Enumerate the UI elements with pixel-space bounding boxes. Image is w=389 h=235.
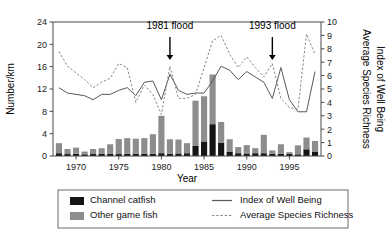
- figure: 0481216202401234567891019701975198019851…: [0, 0, 389, 235]
- y-tick-label: 8: [42, 107, 47, 117]
- y-tick-label: 24: [37, 17, 47, 27]
- y2-tick-label: 3: [327, 111, 332, 121]
- bar-other-game-fish: [210, 74, 216, 124]
- x-tick-label: 1985: [194, 162, 214, 172]
- bar-other-game-fish: [218, 122, 224, 143]
- y2-axis-title-well-being: Index of Well Being: [375, 46, 386, 132]
- bar-other-game-fish: [73, 148, 79, 154]
- bar-other-game-fish: [133, 139, 139, 154]
- bar-other-game-fish: [286, 152, 292, 154]
- y-tick-label: 0: [42, 151, 47, 161]
- y-tick-label: 20: [37, 40, 47, 50]
- bar-channel-catfish: [201, 141, 207, 156]
- bar-other-game-fish: [278, 144, 284, 153]
- x-tick-label: 1995: [279, 162, 299, 172]
- bar-other-game-fish: [90, 149, 96, 154]
- y2-tick-label: 6: [327, 71, 332, 81]
- y2-tick-label: 1: [327, 138, 332, 148]
- y2-tick-label: 8: [327, 44, 332, 54]
- y-axis-title: Number/km: [5, 63, 16, 115]
- bar-channel-catfish: [303, 149, 309, 156]
- y2-tick-label: 5: [327, 84, 332, 94]
- bar-other-game-fish: [312, 141, 318, 152]
- plot-background: [53, 22, 321, 156]
- legend-label: Index of Well Being: [240, 194, 322, 205]
- bar-channel-catfish: [210, 124, 216, 156]
- bar-other-game-fish: [124, 138, 130, 154]
- bar-other-game-fish: [184, 143, 190, 153]
- bar-other-game-fish: [150, 134, 156, 154]
- y2-tick-label: 10: [327, 17, 337, 27]
- bar-channel-catfish: [218, 143, 224, 156]
- bar-other-game-fish: [252, 148, 258, 153]
- x-tick-label: 1980: [151, 162, 171, 172]
- bar-other-game-fish: [261, 135, 267, 153]
- bar-other-game-fish: [64, 149, 70, 154]
- legend-swatch-channel-catfish: [70, 197, 84, 205]
- x-axis-title: Year: [177, 173, 198, 184]
- bar-other-game-fish: [192, 101, 198, 146]
- bar-channel-catfish: [312, 152, 318, 156]
- fish-abundance-chart: 0481216202401234567891019701975198019851…: [0, 0, 389, 235]
- bar-other-game-fish: [227, 139, 233, 151]
- bar-other-game-fish: [107, 144, 113, 153]
- bar-other-game-fish: [269, 150, 275, 153]
- bar-other-game-fish: [201, 96, 207, 141]
- x-tick-label: 1975: [109, 162, 129, 172]
- bar-channel-catfish: [192, 146, 198, 156]
- flood-annotation-label: 1993 flood: [249, 20, 296, 31]
- x-tick-label: 1970: [66, 162, 86, 172]
- bar-other-game-fish: [116, 139, 122, 154]
- legend-label: Average Species Richness: [240, 209, 354, 220]
- y2-tick-label: 0: [327, 151, 332, 161]
- bar-other-game-fish: [158, 116, 164, 153]
- y-tick-label: 4: [42, 129, 47, 139]
- bar-other-game-fish: [56, 143, 62, 153]
- legend-swatch-other-game-fish: [70, 212, 84, 220]
- legend-label: Channel catfish: [90, 194, 155, 205]
- bar-other-game-fish: [141, 138, 147, 154]
- x-tick-label: 1990: [237, 162, 257, 172]
- bar-other-game-fish: [99, 148, 105, 154]
- y2-tick-label: 2: [327, 125, 332, 135]
- bar-other-game-fish: [82, 152, 88, 155]
- y2-tick-label: 7: [327, 58, 332, 68]
- y2-axis-title-species-richness: Average Species Richness: [361, 29, 372, 148]
- bar-other-game-fish: [175, 140, 181, 154]
- legend: Channel catfishOther game fishIndex of W…: [58, 190, 354, 228]
- bar-other-game-fish: [235, 147, 241, 153]
- y2-tick-label: 4: [327, 98, 332, 108]
- bar-channel-catfish: [227, 152, 233, 156]
- legend-label: Other game fish: [90, 209, 158, 220]
- y2-tick-label: 9: [327, 31, 332, 41]
- bar-other-game-fish: [303, 138, 309, 150]
- bar-other-game-fish: [167, 139, 173, 154]
- bar-other-game-fish: [244, 145, 250, 153]
- bar-other-game-fish: [295, 145, 301, 154]
- plot-area: 0481216202401234567891019701975198019851…: [37, 17, 337, 172]
- y-tick-label: 12: [37, 84, 47, 94]
- y-tick-label: 16: [37, 62, 47, 72]
- flood-annotation-label: 1981 flood: [147, 20, 194, 31]
